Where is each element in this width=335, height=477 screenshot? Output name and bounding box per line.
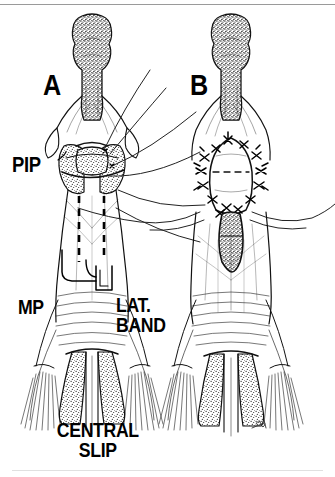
label-lateral-band: LAT. BAND [116, 295, 166, 336]
suture-knot [254, 182, 268, 190]
suture-knot [194, 182, 208, 190]
panel-a-distal-phalanx [72, 14, 111, 120]
suture-knot [200, 147, 209, 161]
label-central-slip: CENTRAL SLIP [57, 420, 139, 461]
suture-knot [256, 163, 268, 174]
label-mp: MP [18, 297, 44, 317]
suture-knot [252, 145, 261, 159]
panel-label-a: A [43, 70, 61, 99]
panel-a-pip-joint [59, 143, 125, 194]
panel-b-central-slip-region [198, 351, 263, 436]
suture-knot [194, 163, 206, 174]
panel-a-incision-dashed [79, 196, 104, 262]
figure-root: A B PIP MP LAT. BAND CENTRAL SLIP [0, 0, 335, 477]
panel-label-b: B [190, 70, 208, 99]
panel-b-distal-phalanx [211, 14, 250, 120]
label-pip: PIP [12, 154, 41, 175]
